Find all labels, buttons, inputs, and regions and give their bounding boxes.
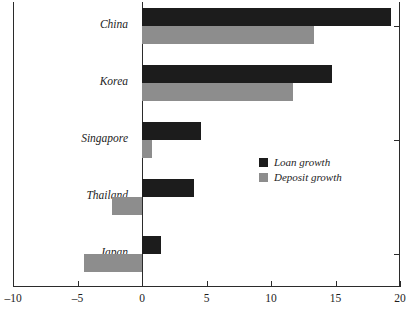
plot-area [13,2,400,287]
legend: Loan growth Deposit growth [259,155,342,185]
x-tick-0 [142,281,143,287]
right-edge-tick-2 [394,254,400,255]
x-tick-20 [400,281,401,287]
bar-thailand-loan [142,179,194,197]
bar-thailand-deposit [112,197,142,215]
x-tick--5 [78,281,79,287]
bar-china-deposit [142,26,314,44]
bar-japan-loan [142,236,161,254]
bar-singapore-loan [142,122,201,140]
bar-china-loan [142,8,391,26]
x-tick-15 [336,281,337,287]
bar-chart: ChinaKoreaSingaporeThailandJapan –10–505… [0,0,408,310]
loan-swatch-icon [259,158,268,167]
bar-singapore-deposit [142,140,152,158]
x-tick-label-5: 5 [204,292,210,304]
x-tick-10 [271,281,272,287]
legend-label-loan: Loan growth [274,156,330,168]
bar-japan-deposit [84,254,142,272]
legend-item-loan: Loan growth [259,155,342,169]
x-axis: –10–505101520 [13,287,400,310]
x-tick-label-10: 10 [265,292,277,304]
x-tick--10 [13,281,14,287]
legend-label-deposit: Deposit growth [274,171,342,183]
x-tick-5 [207,281,208,287]
bar-korea-deposit [142,83,293,101]
deposit-swatch-icon [259,173,268,182]
bar-korea-loan [142,65,332,83]
legend-item-deposit: Deposit growth [259,170,342,184]
x-tick-label--5: –5 [72,292,84,304]
right-edge-tick-1 [394,140,400,141]
x-tick-label-0: 0 [139,292,145,304]
x-tick-label-20: 20 [394,292,406,304]
x-tick-label-15: 15 [330,292,342,304]
x-tick-label--10: –10 [4,292,21,304]
right-edge-tick-0 [394,26,400,27]
